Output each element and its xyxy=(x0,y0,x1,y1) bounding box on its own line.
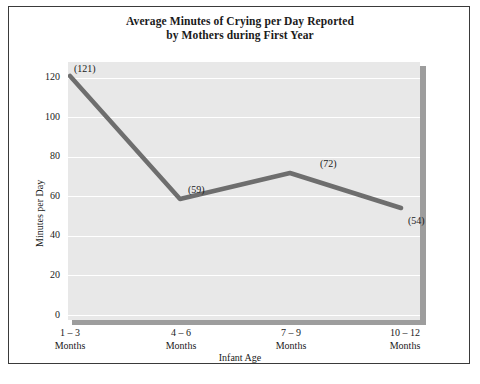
x-tick-label-4: 10 – 12 Months xyxy=(370,326,440,352)
x-tick-label-1-line-2: Months xyxy=(35,339,105,352)
x-tick-label-2: 4 – 6 Months xyxy=(146,326,216,352)
x-tick-label-3-line-1: 7 – 9 xyxy=(256,326,326,339)
x-tick-label-1-line-1: 1 – 3 xyxy=(35,326,105,339)
point-label-4: (54) xyxy=(408,215,425,226)
chart-title: Average Minutes of Crying per Day Report… xyxy=(0,14,480,42)
point-label-1: (121) xyxy=(74,63,96,74)
y-tick-label-100: 100 xyxy=(30,111,60,122)
y-tick-label-20: 20 xyxy=(30,269,60,280)
chart-title-line-2: by Mothers during First Year xyxy=(0,28,480,42)
x-tick-label-3-line-2: Months xyxy=(256,339,326,352)
y-tick-label-120: 120 xyxy=(30,71,60,82)
plot-shadow-right xyxy=(420,66,426,324)
plot-area xyxy=(68,62,420,320)
x-tick-label-4-line-2: Months xyxy=(370,339,440,352)
x-axis-title: Infant Age xyxy=(0,352,480,363)
point-label-3: (72) xyxy=(320,158,337,169)
x-tick-label-4-line-1: 10 – 12 xyxy=(370,326,440,339)
y-tick-label-80: 80 xyxy=(30,150,60,161)
y-tick-label-0: 0 xyxy=(30,309,60,320)
y-tick-label-60: 60 xyxy=(30,190,60,201)
point-label-2: (59) xyxy=(188,184,205,195)
chart-page: Average Minutes of Crying per Day Report… xyxy=(0,0,480,384)
plot-shadow-bottom xyxy=(72,320,426,325)
x-tick-label-3: 7 – 9 Months xyxy=(256,326,326,352)
y-tick-label-40: 40 xyxy=(30,229,60,240)
data-line xyxy=(68,62,420,320)
x-tick-label-2-line-1: 4 – 6 xyxy=(146,326,216,339)
x-tick-label-2-line-2: Months xyxy=(146,339,216,352)
x-tick-label-1: 1 – 3 Months xyxy=(35,326,105,352)
chart-title-line-1: Average Minutes of Crying per Day Report… xyxy=(126,15,354,27)
